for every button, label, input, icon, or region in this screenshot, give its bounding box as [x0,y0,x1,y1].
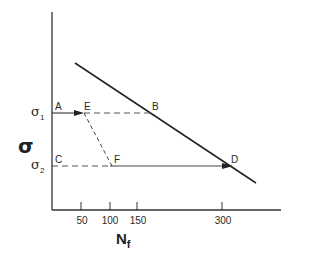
x-tick-label-300: 300 [215,215,232,226]
point-d-label: D [231,155,238,165]
sigma-1-subscript: 1 [40,113,44,122]
x-tick-label-150: 150 [130,215,147,226]
arrow-head-e [74,110,84,116]
sigma-2-symbol: σ [31,157,40,172]
x-tick-label-50: 50 [76,215,87,226]
sigma-2-label: σ2 [31,157,44,175]
path-e-f-dashed [84,113,112,166]
point-c-label: C [55,155,62,165]
point-b-label: B [152,102,159,112]
sigma-2-subscript: 2 [40,166,44,175]
sigma-1-label: σ1 [31,104,44,122]
fatigue-diagram [0,0,321,256]
point-a-label: A [55,102,62,112]
x-axis-title-main: N [116,230,127,247]
point-e-label: E [84,102,91,112]
x-axis-title: Nf [116,230,131,250]
x-axis-title-subscript: f [127,238,131,250]
point-f-label: F [114,155,120,165]
x-tick-label-100: 100 [102,215,119,226]
y-axis-title: σ [18,134,34,158]
sigma-1-symbol: σ [31,104,40,119]
